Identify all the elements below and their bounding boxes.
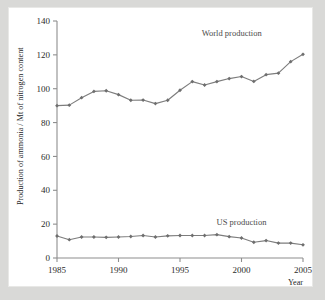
x-axis-tick-label: 1995 — [171, 265, 190, 275]
y-axis-tick-label: 0 — [46, 253, 51, 263]
y-axis-tick-label: 20 — [41, 219, 51, 229]
data-point-marker — [92, 90, 96, 94]
data-series-group — [55, 52, 305, 246]
y-axis-tick-label: 60 — [41, 152, 51, 162]
data-point-marker — [203, 83, 207, 87]
data-point-marker — [178, 234, 182, 238]
data-point-marker — [129, 235, 133, 239]
chart-page: 020406080100120140 19851990199520002005 … — [0, 0, 325, 300]
data-point-marker — [117, 235, 121, 239]
y-axis-ticks — [53, 21, 57, 258]
data-point-marker — [104, 235, 108, 239]
series-us-production — [55, 233, 305, 247]
y-axis-tick-labels: 020406080100120140 — [37, 16, 51, 263]
x-axis-tick-labels: 19851990199520002005 — [48, 265, 313, 275]
data-point-marker — [277, 241, 281, 245]
data-point-marker — [190, 234, 194, 238]
x-axis-tick-label: 2005 — [294, 265, 313, 275]
series-world-production — [55, 52, 305, 107]
data-point-marker — [215, 80, 219, 84]
series-label-us-production: US production — [217, 217, 268, 227]
data-point-marker — [252, 240, 256, 244]
data-point-marker — [240, 75, 244, 79]
data-point-marker — [55, 234, 59, 238]
data-point-marker — [129, 98, 133, 102]
y-axis-tick-label: 120 — [37, 50, 51, 60]
series-annotations: World productionUS production — [202, 28, 267, 227]
data-point-marker — [67, 238, 71, 242]
data-point-marker — [104, 89, 108, 93]
series-line — [57, 54, 303, 105]
data-point-marker — [92, 235, 96, 239]
y-axis-tick-label: 100 — [37, 84, 51, 94]
x-axis-tick-label: 1990 — [110, 265, 129, 275]
data-point-marker — [227, 235, 231, 239]
data-point-marker — [55, 104, 59, 108]
y-axis-tick-label: 80 — [41, 118, 51, 128]
data-point-marker — [227, 77, 231, 81]
y-axis-tick-label: 140 — [37, 16, 51, 26]
data-point-marker — [203, 234, 207, 238]
data-point-marker — [154, 102, 158, 106]
data-point-marker — [80, 235, 84, 239]
data-point-marker — [117, 93, 121, 97]
line-chart: 020406080100120140 19851990199520002005 … — [0, 0, 325, 300]
data-point-marker — [264, 239, 268, 243]
y-axis-title: Production of ammonia / Mt of nitrogen c… — [16, 47, 25, 205]
x-axis-tick-label: 1985 — [48, 265, 67, 275]
series-label-world-production: World production — [202, 28, 263, 38]
chart-plot-area: 020406080100120140 19851990199520002005 … — [0, 0, 325, 300]
x-axis-title: Year — [288, 278, 303, 287]
x-axis-tick-label: 2000 — [233, 265, 252, 275]
data-point-marker — [215, 233, 219, 237]
y-axis-tick-label: 40 — [41, 185, 51, 195]
data-point-marker — [141, 98, 145, 102]
data-point-marker — [301, 243, 305, 247]
data-point-marker — [154, 235, 158, 239]
data-point-marker — [289, 241, 293, 245]
data-point-marker — [166, 234, 170, 238]
data-point-marker — [141, 234, 145, 238]
x-axis-ticks — [57, 258, 303, 262]
data-point-marker — [240, 236, 244, 240]
